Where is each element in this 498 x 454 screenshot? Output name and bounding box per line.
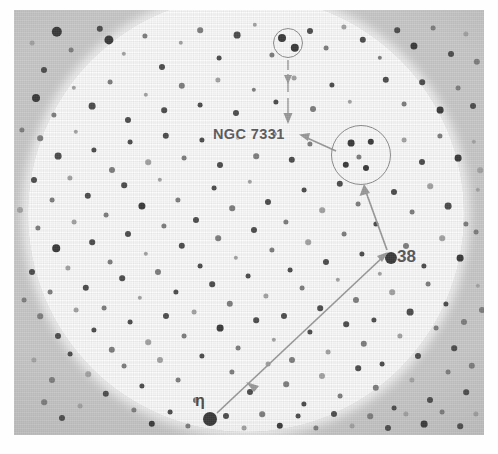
star-chart-figure: NGC 7331 38 η — [0, 0, 498, 454]
arrow-star38-to-large-circle — [360, 184, 388, 250]
annotation-overlay — [14, 10, 484, 435]
arrow-eta-to-star38 — [217, 252, 388, 413]
marker-circle-ngc7331 — [331, 125, 391, 185]
arrow-large-circle-to-label — [299, 133, 336, 151]
label-star-38: 38 — [397, 247, 416, 267]
marker-circle-companion — [273, 28, 303, 58]
label-star-eta: η — [195, 392, 205, 410]
photographic-plate: NGC 7331 38 η — [14, 10, 484, 435]
arrow-small-circle-to-label — [284, 60, 293, 124]
label-ngc7331: NGC 7331 — [213, 126, 285, 142]
